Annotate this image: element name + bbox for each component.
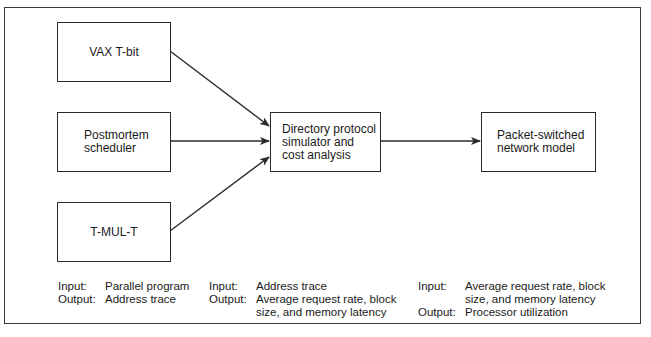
node-label: T-MUL-T bbox=[90, 226, 137, 239]
node-vax-t-bit: VAX T-bit bbox=[57, 22, 171, 82]
io-input-row: Input: Address trace bbox=[209, 280, 396, 293]
node-t-mul-t: T-MUL-T bbox=[57, 202, 171, 262]
io-input-key: Input: bbox=[58, 280, 105, 293]
node-packet-switched-model: Packet-switched network model bbox=[481, 112, 596, 172]
node-label: Packet-switched network model bbox=[497, 129, 584, 155]
io-output-row: Output: Address trace bbox=[58, 293, 189, 306]
io-input-row: Input: Parallel program bbox=[58, 280, 189, 293]
io-input-row: Input: Average request rate, block size,… bbox=[418, 280, 605, 306]
io-output-key: Output: bbox=[418, 306, 465, 319]
io-output-key: Output: bbox=[209, 293, 256, 319]
io-output-row: Output: Processor utilization bbox=[418, 306, 605, 319]
io-input-value: Address trace bbox=[256, 280, 327, 293]
trace-pipeline-diagram: VAX T-bit Postmortem scheduler T-MUL-T D… bbox=[0, 0, 651, 337]
io-input-key: Input: bbox=[418, 280, 465, 306]
io-input-value: Parallel program bbox=[105, 280, 189, 293]
io-output-value: Address trace bbox=[105, 293, 176, 306]
node-label: VAX T-bit bbox=[89, 46, 139, 59]
io-output-value: Processor utilization bbox=[465, 306, 568, 319]
node-postmortem-scheduler: Postmortem scheduler bbox=[57, 112, 171, 172]
io-output-value: Average request rate, block size, and me… bbox=[256, 293, 396, 319]
node-directory-simulator: Directory protocol simulator and cost an… bbox=[270, 112, 381, 172]
io-output-row: Output: Average request rate, block size… bbox=[209, 293, 396, 319]
node-label: Directory protocol simulator and cost an… bbox=[282, 123, 376, 162]
io-block-directory-simulator: Input: Address trace Output: Average req… bbox=[209, 280, 396, 319]
io-output-key: Output: bbox=[58, 293, 105, 306]
io-input-key: Input: bbox=[209, 280, 256, 293]
io-block-trace-generators: Input: Parallel program Output: Address … bbox=[58, 280, 189, 306]
io-block-network-model: Input: Average request rate, block size,… bbox=[418, 280, 605, 319]
node-label: Postmortem scheduler bbox=[84, 129, 149, 155]
io-input-value: Average request rate, block size, and me… bbox=[465, 280, 605, 306]
